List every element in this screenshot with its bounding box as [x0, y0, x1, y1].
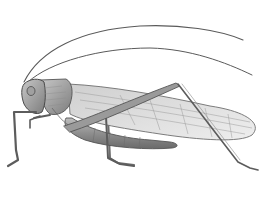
- front-legs: [8, 112, 50, 166]
- grasshopper-illustration: [0, 0, 273, 204]
- eye: [27, 87, 35, 96]
- antennae: [24, 26, 252, 82]
- illustration-canvas: grasshopper: [0, 0, 273, 204]
- head: [22, 79, 46, 113]
